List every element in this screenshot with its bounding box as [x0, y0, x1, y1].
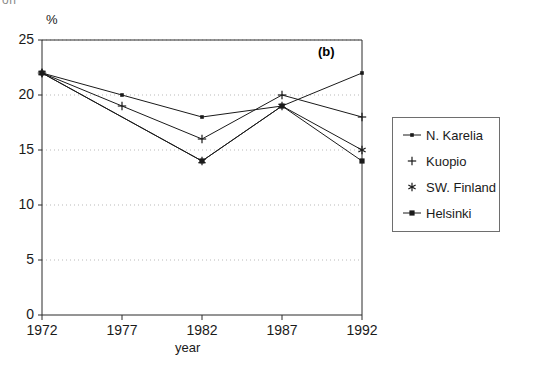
square-marker-icon — [401, 206, 423, 220]
figure-panel-b: on % (b) 0510152025 19721977198219871992… — [0, 0, 533, 370]
x-tick-label: 1992 — [335, 322, 389, 338]
legend-item-label: SW. Finland — [426, 180, 496, 195]
x-tick-label: 1972 — [15, 322, 69, 338]
x-tick-label: 1987 — [255, 322, 309, 338]
x-tick-label: 1977 — [95, 322, 149, 338]
legend-item-label: Helsinki — [426, 206, 472, 221]
y-tick-label: 5 — [4, 251, 34, 267]
dot-marker-icon — [401, 128, 423, 142]
x-axis-title: year — [175, 340, 200, 355]
y-tick-label: 15 — [4, 141, 34, 157]
plus-marker-icon — [401, 154, 423, 168]
chart-legend: N. KareliaKuopioSW. FinlandHelsinki — [392, 117, 500, 232]
axis-frame — [42, 40, 362, 315]
y-tick-label: 10 — [4, 196, 34, 212]
legend-item-kuopio: Kuopio — [401, 150, 466, 172]
y-tick-label: 20 — [4, 86, 34, 102]
y-tick-label: 0 — [4, 306, 34, 322]
legend-item-n-karelia: N. Karelia — [401, 124, 483, 146]
x-tick-label: 1982 — [175, 322, 229, 338]
series-markers — [38, 69, 366, 165]
legend-item-helsinki: Helsinki — [401, 202, 472, 224]
y-tick-label: 25 — [4, 31, 34, 47]
asterisk-marker-icon — [401, 180, 423, 194]
axis-tick-marks — [38, 40, 362, 320]
legend-item-label: N. Karelia — [426, 128, 483, 143]
legend-item-label: Kuopio — [426, 154, 466, 169]
gridlines — [42, 40, 362, 260]
legend-item-sw-finland: SW. Finland — [401, 176, 496, 198]
